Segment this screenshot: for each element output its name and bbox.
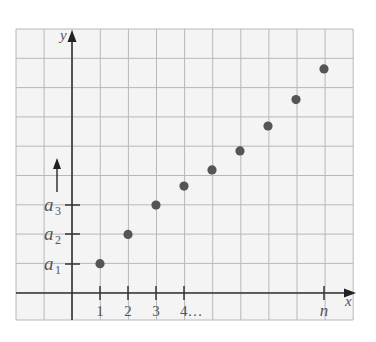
data-point-9 xyxy=(319,64,328,73)
data-point-3 xyxy=(151,201,160,210)
svg-text:1: 1 xyxy=(55,263,61,277)
data-point-1 xyxy=(95,259,104,268)
y-axis-label: y xyxy=(58,27,67,43)
sequence-scatter-chart: y x 1 2 3 4… n a 1 a 2 a 3 xyxy=(0,0,376,342)
svg-text:a: a xyxy=(44,194,54,215)
data-point-7 xyxy=(263,121,272,130)
data-point-5 xyxy=(207,165,216,174)
svg-text:3: 3 xyxy=(55,204,61,218)
svg-text:a: a xyxy=(44,223,54,244)
data-point-2 xyxy=(123,230,132,239)
svg-text:a: a xyxy=(44,253,54,274)
x-axis-label: x xyxy=(344,293,352,309)
data-point-4 xyxy=(179,182,188,191)
x-tick-n: n xyxy=(320,301,329,320)
data-point-6 xyxy=(235,146,244,155)
x-tick-2: 2 xyxy=(124,303,132,319)
svg-text:2: 2 xyxy=(55,233,61,247)
data-point-8 xyxy=(291,95,300,104)
x-tick-3: 3 xyxy=(152,303,160,319)
x-tick-4: 4… xyxy=(180,303,203,319)
x-tick-1: 1 xyxy=(96,303,104,319)
